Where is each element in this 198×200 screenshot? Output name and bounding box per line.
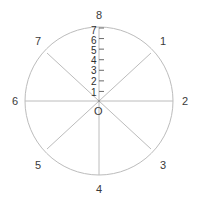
radial-label-3: 3 xyxy=(160,160,166,171)
circle-sector-figure: 1 2 3 4 5 6 7 8 1 2 3 4 5 6 7 O xyxy=(0,0,198,200)
axis-tick-label-3: 3 xyxy=(91,66,97,76)
radial-label-5: 5 xyxy=(35,160,41,171)
radial-label-4: 4 xyxy=(96,184,102,195)
circle-diagram-canvas xyxy=(0,0,198,200)
radial-label-1: 1 xyxy=(160,36,166,47)
origin-marker-group xyxy=(98,100,100,102)
origin-point xyxy=(98,100,100,102)
radial-label-8: 8 xyxy=(96,10,102,21)
origin-label: O xyxy=(94,106,103,117)
radial-label-7: 7 xyxy=(35,36,41,47)
axis-tick-label-7: 7 xyxy=(91,26,97,36)
axis-tick-label-2: 2 xyxy=(91,77,97,87)
axis-tick-label-4: 4 xyxy=(91,56,97,66)
axis-tick-label-6: 6 xyxy=(91,36,97,46)
radial-label-2: 2 xyxy=(182,96,188,107)
vertical-axis-ticks-group xyxy=(99,28,104,91)
radial-label-6: 6 xyxy=(12,96,18,107)
axis-tick-label-1: 1 xyxy=(91,88,97,98)
axis-tick-label-5: 5 xyxy=(91,46,97,56)
